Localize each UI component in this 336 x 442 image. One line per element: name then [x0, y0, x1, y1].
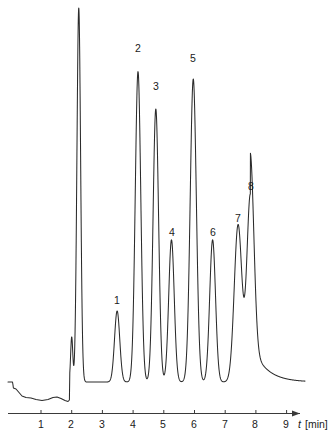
x-axis-arrow-icon — [292, 410, 300, 416]
chromatogram-figure: 1 2 3 4 5 6 7 8 9 t [min] 1 2 3 4 5 6 7 … — [0, 0, 336, 442]
chromatogram-trace — [8, 8, 305, 402]
chromatogram-plot: 1 2 3 4 5 6 7 8 9 t [min] 1 2 3 4 5 6 7 … — [0, 0, 336, 442]
x-tick-label-5: 5 — [160, 418, 166, 430]
x-tick-label-1: 1 — [38, 418, 44, 430]
x-tick-label-7: 7 — [222, 418, 228, 430]
x-tick-label-8: 8 — [252, 418, 258, 430]
peak-label-4: 4 — [169, 226, 175, 238]
x-tick-label-6: 6 — [191, 418, 197, 430]
x-axis-tick-labels: 1 2 3 4 5 6 7 8 9 — [38, 418, 289, 430]
x-axis — [8, 410, 300, 417]
peak-label-1: 1 — [114, 294, 120, 306]
peak-label-7: 7 — [235, 212, 241, 224]
peak-label-2: 2 — [135, 42, 141, 54]
x-tick-label-4: 4 — [130, 418, 136, 430]
peak-label-6: 6 — [210, 226, 216, 238]
peak-label-5: 5 — [190, 52, 196, 64]
x-tick-label-9: 9 — [283, 418, 289, 430]
peak-label-3: 3 — [153, 80, 159, 92]
x-axis-title-symbol: t — [298, 418, 302, 430]
x-tick-label-3: 3 — [99, 418, 105, 430]
x-axis-title: t [min] — [298, 418, 328, 430]
peak-label-8: 8 — [248, 180, 254, 192]
x-tick-label-2: 2 — [68, 418, 74, 430]
x-axis-title-unit: [min] — [305, 418, 328, 430]
